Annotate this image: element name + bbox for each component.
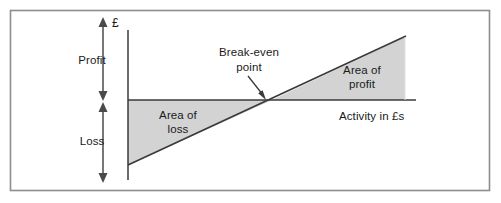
break-even-label-line1: Break-even xyxy=(219,46,279,58)
profit-bracket-label: Profit xyxy=(78,54,106,66)
x-axis-label: Activity in £s xyxy=(339,110,404,122)
break-even-label-line2: point xyxy=(236,61,262,73)
break-even-diagram: £ Profit Loss Break-even point Area of l… xyxy=(0,0,501,203)
y-axis-currency-label: £ xyxy=(112,16,119,30)
area-of-loss-label-line2: loss xyxy=(168,123,189,135)
area-of-profit-label-line1: Area of xyxy=(343,64,381,76)
area-of-loss-label-line1: Area of xyxy=(159,109,197,121)
break-even-chart-svg: £ Profit Loss Break-even point Area of l… xyxy=(0,0,501,203)
loss-bracket-label: Loss xyxy=(80,135,105,147)
area-of-profit-label-line2: profit xyxy=(349,78,376,90)
